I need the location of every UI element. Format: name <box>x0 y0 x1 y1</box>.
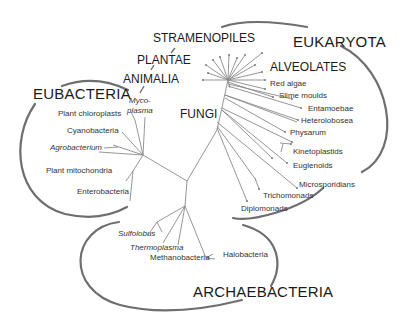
domain-label-archaebacteria: ARCHAEBACTERIA <box>193 284 333 299</box>
eubacteria-lower-arc <box>20 104 127 217</box>
taxon-label-diplomonads: Diplomonads <box>241 205 288 213</box>
taxon-label-cyanobacteria: Cyanobacteria <box>67 127 119 135</box>
taxon-label-heterolobosea: Heterolobosea <box>301 117 353 125</box>
taxon-label-thermoplasma: Thermoplasma <box>130 244 183 252</box>
taxon-label-euglenoids: Euglenoids <box>293 162 333 170</box>
taxon-label-mycoplasma-line1: Myco- <box>129 97 151 105</box>
eukaryota-top-arc <box>222 22 307 27</box>
taxon-label-agrobacterium: Agrobacterium <box>50 144 102 152</box>
taxon-label-methanobacteria: Methanobacteria <box>150 254 210 262</box>
taxon-label-sulfolobus: Sulfolobus <box>118 230 155 238</box>
domain-label-eubacteria: EUBACTERIA <box>33 86 131 101</box>
taxon-label-slime-moulds: Slime moulds <box>279 92 327 100</box>
taxon-label-red-algae: Red algae <box>270 80 306 88</box>
taxon-label-plant-mitochondria: Plant mitochondria <box>46 167 112 175</box>
taxon-label-entamoebae: Entamoebae <box>308 105 353 113</box>
taxon-label-mycoplasma-line2: plasma <box>127 107 153 115</box>
group-label-stramenopiles: STRAMENOPILES <box>153 32 255 44</box>
taxon-label-enterobacteria: Enterobacteria <box>77 188 129 196</box>
domain-label-eukaryota: EUKARYOTA <box>293 34 386 49</box>
taxon-label-plant-chloroplasts: Plant chloroplasts <box>58 110 121 118</box>
taxon-label-physarum: Physarum <box>290 129 326 137</box>
taxon-label-microsporidians: Microsporidians <box>299 181 355 189</box>
group-label-alveolates: ALVEOLATES <box>270 61 346 73</box>
taxon-label-trichomonads: Trichomonads <box>263 192 313 200</box>
group-label-plantae: PLANTAE <box>137 54 191 66</box>
group-label-fungi: FUNGI <box>180 108 217 120</box>
taxon-label-halobacteria: Halobacteria <box>223 251 268 259</box>
group-label-animalia: ANIMALIA <box>123 73 179 85</box>
taxon-label-kinetoplastids: Kinetoplastids <box>293 148 343 156</box>
